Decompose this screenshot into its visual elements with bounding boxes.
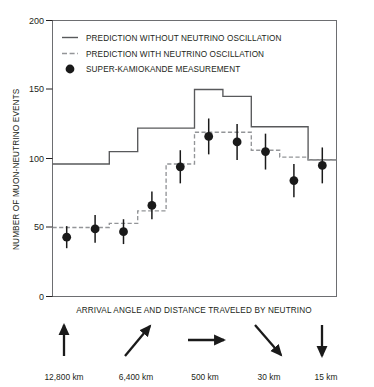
distance-label-2: 500 km: [191, 372, 218, 382]
legend-swatch-filled-circle: [66, 65, 75, 74]
legend-label-1: PREDICTION WITH NEUTRINO OSCILLATION: [86, 50, 264, 59]
plot-frame: [53, 21, 337, 297]
data-point: [204, 118, 213, 154]
y-tick-label-0: 0: [39, 292, 44, 302]
measurement-marker: [233, 138, 242, 147]
distance-label-4: 15 km: [315, 372, 338, 382]
measurement-marker: [119, 227, 128, 236]
measurement-marker: [62, 233, 71, 242]
direction-arrows: [64, 325, 322, 356]
data-point: [261, 134, 270, 170]
y-tick-label-50: 50: [34, 222, 44, 232]
arrow-up-right-icon: [125, 326, 150, 356]
arrow-down-right-icon: [255, 325, 281, 355]
legend: PREDICTION WITHOUT NEUTRINO OSCILLATION …: [62, 34, 282, 75]
legend-label-2: SUPER-KAMIOKANDE MEASUREMENT: [86, 65, 240, 74]
measurement-marker: [148, 201, 157, 210]
data-point: [148, 192, 157, 220]
y-tick-label-150: 150: [29, 84, 44, 94]
measurement-marker: [261, 147, 270, 156]
y-axis-title: NUMBER OF MUON-NEUTRINO EVENTS: [12, 88, 21, 250]
y-tick-label-200: 200: [29, 16, 44, 26]
measurement-marker: [176, 162, 185, 171]
measurement-marker: [318, 161, 327, 170]
legend-label-0: PREDICTION WITHOUT NEUTRINO OSCILLATION: [86, 34, 282, 43]
distance-label-3: 30 km: [258, 372, 281, 382]
series-prediction-without-oscillation: [53, 90, 337, 165]
data-point: [176, 150, 185, 183]
data-point: [91, 215, 100, 243]
y-axis-ticks: [46, 21, 53, 297]
data-point: [233, 124, 242, 160]
neutrino-oscillation-figure: 200 150 100 50 0 NUMBER OF MUON-NEUTRINO…: [0, 0, 374, 387]
measurement-marker: [204, 132, 213, 141]
measurement-marker: [290, 176, 299, 185]
data-point: [62, 226, 71, 248]
data-point: [318, 147, 327, 183]
data-point: [290, 164, 299, 197]
y-tick-label-100: 100: [29, 154, 44, 164]
chart-svg: 200 150 100 50 0 NUMBER OF MUON-NEUTRINO…: [0, 0, 374, 387]
measurement-marker: [91, 224, 100, 233]
distance-label-0: 12,800 km: [44, 372, 83, 382]
data-point: [119, 219, 128, 244]
distance-label-1: 6,400 km: [119, 372, 153, 382]
x-axis-title: ARRIVAL ANGLE AND DISTANCE TRAVELED BY N…: [76, 306, 312, 315]
